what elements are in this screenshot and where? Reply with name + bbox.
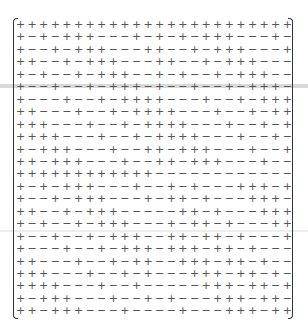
matrix-entry: + [270, 19, 281, 31]
hadamard-matrix: +++++++++++++++++++++++++−+−+++−−−+−+−+−… [13, 18, 293, 319]
matrix-entry: + [212, 293, 223, 305]
matrix-entry: − [212, 181, 223, 193]
matrix-entry: − [224, 231, 235, 243]
matrix-entry: + [154, 131, 165, 143]
matrix-entry: − [38, 94, 49, 106]
matrix-entry: + [224, 119, 235, 131]
matrix-entry: − [177, 56, 188, 68]
matrix-entry: − [154, 181, 165, 193]
matrix-entry: + [108, 106, 119, 118]
matrix-entry: − [73, 131, 84, 143]
matrix-entry: − [50, 206, 61, 218]
matrix-entry: + [166, 131, 177, 143]
matrix-entry: + [27, 256, 38, 268]
matrix-entry: − [154, 305, 165, 317]
matrix-entry: + [15, 31, 26, 43]
matrix-entry: − [50, 181, 61, 193]
matrix-entry: + [177, 243, 188, 255]
matrix-entry: − [50, 256, 61, 268]
matrix-entry: − [247, 231, 258, 243]
matrix-entry: − [108, 268, 119, 280]
matrix-entry: − [50, 243, 61, 255]
matrix-entry: + [282, 94, 293, 106]
matrix-entry: − [131, 44, 142, 56]
matrix-entry: − [143, 156, 154, 168]
matrix-entry: + [38, 31, 49, 43]
matrix-entry: + [85, 168, 96, 180]
matrix-entry: + [201, 94, 212, 106]
matrix-entry: − [224, 181, 235, 193]
matrix-entry: + [108, 168, 119, 180]
matrix-entry: + [119, 119, 130, 131]
matrix-entry: − [73, 94, 84, 106]
matrix-entry: + [96, 56, 107, 68]
matrix-entry: + [50, 168, 61, 180]
matrix-entry: − [73, 206, 84, 218]
matrix-entry: − [61, 268, 72, 280]
matrix-entry: + [224, 280, 235, 292]
matrix-entry: − [212, 193, 223, 205]
matrix-entry: + [224, 56, 235, 68]
matrix-entry: − [270, 119, 281, 131]
matrix-entry: − [282, 256, 293, 268]
matrix-entry: + [177, 256, 188, 268]
matrix-entry: − [131, 56, 142, 68]
matrix-entry: − [143, 280, 154, 292]
matrix-entry: − [235, 31, 246, 43]
matrix-entry: + [177, 119, 188, 131]
matrix-entry: − [282, 31, 293, 43]
matrix-entry: + [143, 168, 154, 180]
matrix-entry: + [177, 19, 188, 31]
matrix-entry: + [108, 256, 119, 268]
matrix-entry: + [189, 181, 200, 193]
matrix-entry: − [85, 94, 96, 106]
matrix-entry: + [154, 119, 165, 131]
matrix-entry: + [282, 144, 293, 156]
matrix-entry: − [259, 243, 270, 255]
matrix-entry: − [270, 144, 281, 156]
matrix-entry: + [247, 144, 258, 156]
matrix-entry: − [212, 56, 223, 68]
matrix-entry: + [166, 243, 177, 255]
matrix-entry: − [212, 168, 223, 180]
matrix-entry: − [166, 268, 177, 280]
matrix-entry: − [189, 305, 200, 317]
matrix-entry: + [27, 156, 38, 168]
matrix-entry: − [270, 231, 281, 243]
matrix-entry: + [270, 81, 281, 93]
matrix-entry: − [119, 193, 130, 205]
matrix-entry: + [119, 243, 130, 255]
matrix-entry: − [143, 218, 154, 230]
matrix-entry: − [61, 256, 72, 268]
matrix-entry: − [50, 119, 61, 131]
matrix-entry: + [247, 193, 258, 205]
matrix-entry: + [201, 256, 212, 268]
matrix-entry: + [259, 256, 270, 268]
matrix-entry: − [154, 231, 165, 243]
matrix-entry: + [27, 280, 38, 292]
matrix-entry: − [247, 218, 258, 230]
matrix-entry: + [61, 293, 72, 305]
matrix-entry: + [212, 156, 223, 168]
matrix-entry: − [85, 256, 96, 268]
matrix-entry: + [166, 56, 177, 68]
matrix-entry: − [189, 56, 200, 68]
matrix-entry: − [166, 44, 177, 56]
matrix-entry: + [61, 168, 72, 180]
matrix-entry: + [119, 156, 130, 168]
matrix-entry: + [15, 81, 26, 93]
matrix-entry: − [27, 69, 38, 81]
matrix-entry: + [15, 69, 26, 81]
matrix-entry: − [73, 268, 84, 280]
matrix-entry: + [61, 181, 72, 193]
matrix-entry: − [259, 144, 270, 156]
matrix-entry: − [247, 293, 258, 305]
matrix-entry: − [201, 119, 212, 131]
matrix-entry: + [259, 280, 270, 292]
matrix-entry: − [61, 69, 72, 81]
matrix-entry: − [119, 131, 130, 143]
matrix-entry: + [119, 19, 130, 31]
matrix-entry: + [201, 144, 212, 156]
matrix-entry: − [143, 81, 154, 93]
matrix-entry: + [96, 19, 107, 31]
